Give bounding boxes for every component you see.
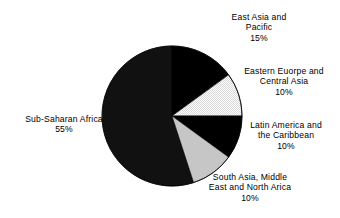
pie-label-line: Eastern Euorpe and (229, 66, 339, 76)
pie-chart-figure: East Asia and Pacific 15% Eastern Euorpe… (0, 0, 340, 218)
pie-label-latin-america-caribbean: Latin America and the Caribbean 10% (234, 120, 338, 151)
pie-label-line: Pacific (199, 22, 319, 32)
pie-label-line: East and North Arica (186, 182, 314, 192)
pie-label-line: the Caribbean (234, 130, 338, 140)
pie-label-line: South Asia, Middle (186, 172, 314, 182)
pie-label-value: 55% (8, 124, 120, 134)
pie-label-eastern-europe-central-asia: Eastern Euorpe and Central Asia 10% (229, 66, 339, 97)
pie-label-line: Latin America and (234, 120, 338, 130)
pie-label-line: Central Asia (229, 76, 339, 86)
pie-label-sub-saharan-africa: Sub-Saharan Africa 55% (8, 114, 120, 135)
pie-label-east-asia-pacific: East Asia and Pacific 15% (199, 12, 319, 43)
pie-label-line: Sub-Saharan Africa (8, 114, 120, 124)
pie-label-value: 15% (199, 33, 319, 43)
pie-label-south-asia-middle-east-north-africa: South Asia, Middle East and North Arica … (186, 172, 314, 203)
pie-label-line: East Asia and (199, 12, 319, 22)
pie-label-value: 10% (186, 193, 314, 203)
pie-label-value: 10% (234, 141, 338, 151)
pie-label-value: 10% (229, 87, 339, 97)
